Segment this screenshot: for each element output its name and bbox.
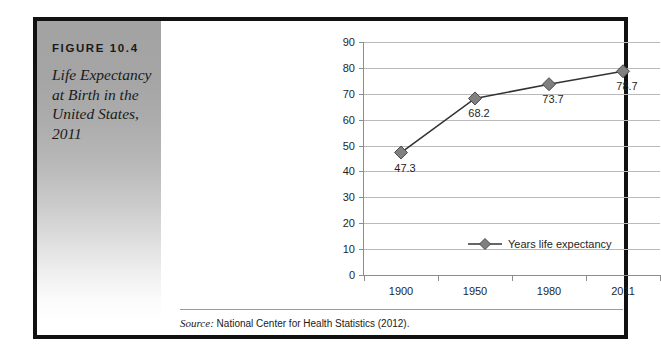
data-point-marker [543,78,556,91]
y-tick-label: 40 [343,165,355,177]
x-tick-mark [364,275,365,281]
y-tick-label: 80 [343,62,355,74]
y-tick-label: 90 [343,36,355,48]
series-polyline [401,71,623,152]
x-tick-label: 1900 [389,285,413,297]
plot-area: 9080706050403020100 1900195019802011 47.… [364,42,660,275]
figure-number-label: FIGURE 10.4 [52,42,139,54]
data-point-marker [469,92,482,105]
legend-marker-icon [468,238,502,250]
source-note: Source: National Center for Health Stati… [180,317,409,329]
y-tick-label: 0 [349,269,355,281]
x-tick-mark [438,275,439,281]
data-point-label: 47.3 [394,162,415,174]
figure-caption-panel: FIGURE 10.4 Life Expectancy at Birth in … [37,21,161,335]
chart-legend: Years life expectancy [468,238,612,250]
x-tick-label: 1950 [463,285,487,297]
source-divider [180,309,623,310]
data-point-label: 78.7 [616,80,637,92]
series-markers [395,65,630,159]
data-point-marker [395,146,408,159]
y-tick-label: 10 [343,243,355,255]
y-tick-label: 30 [343,191,355,203]
chart-area: 9080706050403020100 1900195019802011 47.… [161,21,624,335]
x-tick-mark [586,275,587,281]
source-prefix: Source: [180,317,214,329]
x-tick-mark [512,275,513,281]
data-point-marker [617,65,630,78]
data-point-label: 73.7 [542,93,563,105]
x-tick-label: 2011 [611,285,635,297]
figure-frame: FIGURE 10.4 Life Expectancy at Birth in … [33,17,628,339]
source-text: National Center for Health Statistics (2… [217,318,410,329]
y-tick-label: 50 [343,140,355,152]
y-tick-label: 70 [343,88,355,100]
figure-title: Life Expectancy at Birth in the United S… [52,65,156,143]
x-tick-label: 1980 [537,285,561,297]
data-point-label: 68.2 [468,107,489,119]
legend-label: Years life expectancy [508,238,612,250]
y-tick-label: 60 [343,114,355,126]
figure-inner-background: FIGURE 10.4 Life Expectancy at Birth in … [37,21,624,335]
y-tick-label: 20 [343,217,355,229]
